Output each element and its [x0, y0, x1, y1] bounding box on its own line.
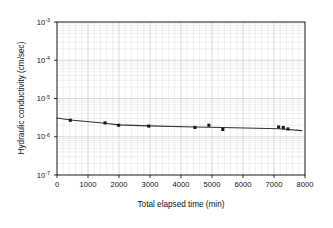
x-tick-label: 7000 [266, 180, 283, 189]
hydraulic-conductivity-chart: 10-310-410-510-610-7 0100020003000400050… [0, 0, 333, 228]
data-point [286, 127, 289, 130]
x-tick-label: 0 [55, 180, 59, 189]
data-point [282, 126, 285, 129]
data-point [117, 124, 120, 127]
data-point [104, 121, 107, 124]
x-tick-label: 8000 [297, 180, 314, 189]
chart-figure: 10-310-410-510-610-7 0100020003000400050… [0, 0, 333, 228]
data-point [207, 124, 210, 127]
x-tick-label: 6000 [235, 180, 252, 189]
x-axis-title: Total elapsed time (min) [138, 200, 225, 209]
data-point [69, 119, 72, 122]
plot-area [54, 22, 305, 178]
data-point [221, 128, 224, 131]
x-tick-label: 1000 [80, 180, 97, 189]
x-tick-label: 4000 [173, 180, 190, 189]
data-point [193, 126, 196, 129]
y-axis-title: Hydraulic conductivity (cm/sec) [17, 41, 26, 154]
x-tick-label: 3000 [142, 180, 159, 189]
data-point [147, 125, 150, 128]
data-point [277, 125, 280, 128]
x-axis-tick-labels: 010002000300040005000600070008000 [55, 180, 314, 189]
x-tick-label: 5000 [204, 180, 221, 189]
x-tick-label: 2000 [111, 180, 128, 189]
